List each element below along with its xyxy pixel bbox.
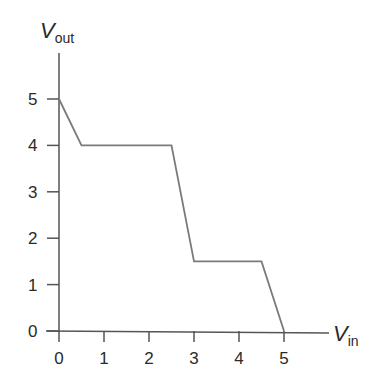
y-tick-label: 3 (28, 183, 37, 202)
y-tick-label: 4 (28, 136, 37, 155)
y-axis-title: Vout (40, 18, 74, 46)
x-tick-label: 0 (54, 349, 63, 368)
y-tick-label: 2 (28, 229, 37, 248)
x-axis-title: Vin (333, 321, 359, 349)
series-line (59, 99, 284, 331)
x-tick-label: 1 (99, 349, 108, 368)
y-tick-label: 5 (28, 90, 37, 109)
y-tick-label: 0 (28, 322, 37, 341)
x-tick-label: 5 (279, 349, 288, 368)
y-tick-label: 1 (28, 276, 37, 295)
axes (46, 53, 329, 333)
x-tick-label: 4 (234, 349, 243, 368)
x-ticks: 012345 (54, 331, 288, 368)
x-axis (46, 331, 329, 333)
y-ticks: 012345 (28, 90, 59, 341)
transfer-chart: 012345 012345 Vout Vin (0, 0, 384, 392)
x-tick-label: 3 (189, 349, 198, 368)
x-tick-label: 2 (144, 349, 153, 368)
